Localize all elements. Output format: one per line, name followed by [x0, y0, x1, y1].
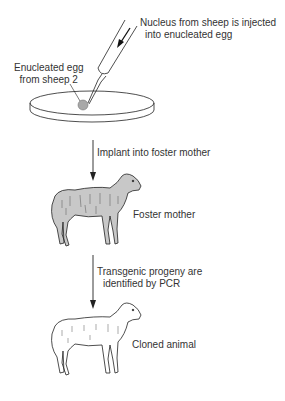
- cloned-animal-label: Cloned animal: [132, 339, 196, 351]
- pcr-label: Transgenic progeny are identified by PCR: [97, 266, 202, 290]
- pcr-label-line1: Transgenic progeny are: [97, 266, 202, 278]
- egg-label: Enucleated egg from sheep 2: [14, 62, 84, 86]
- egg-label-line1: Enucleated egg: [14, 62, 84, 74]
- injection-label: Nucleus from sheep is injected into enuc…: [140, 17, 276, 41]
- cloned-sheep-icon: [52, 303, 141, 375]
- egg-label-line2: from sheep 2: [14, 74, 84, 86]
- foster-mother-label: Foster mother: [133, 209, 195, 221]
- arrow-down-1-icon: [90, 140, 96, 181]
- foster-mother-sheep-icon: [52, 174, 141, 246]
- arrow-down-2-icon: [90, 255, 96, 309]
- injection-label-line1: Nucleus from sheep is injected: [140, 17, 276, 29]
- petri-dish-icon: [30, 91, 154, 122]
- pcr-label-line2: identified by PCR: [97, 278, 202, 290]
- implant-label: Implant into foster mother: [97, 147, 210, 159]
- injection-label-line2: into enucleated egg: [140, 29, 276, 41]
- egg-icon: [78, 100, 88, 110]
